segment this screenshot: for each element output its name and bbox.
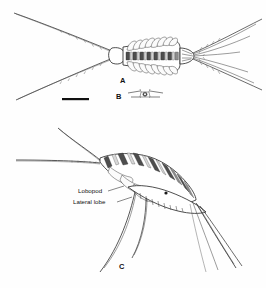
panel-a-segments — [126, 52, 178, 60]
panel-a-head — [109, 48, 124, 64]
scale-bar — [62, 98, 89, 100]
scientific-figure-svg: A B — [0, 0, 266, 288]
panel-c-eye-spot — [164, 191, 167, 194]
panel-c-label: C — [119, 262, 125, 271]
annotation-lateral-lobe: Lateral lobe — [73, 198, 106, 205]
figure-container: A B — [0, 0, 266, 288]
panel-a-label: A — [120, 76, 126, 85]
annotation-lobopod: Lobopod — [78, 187, 103, 194]
panel-b-label: B — [116, 92, 122, 101]
